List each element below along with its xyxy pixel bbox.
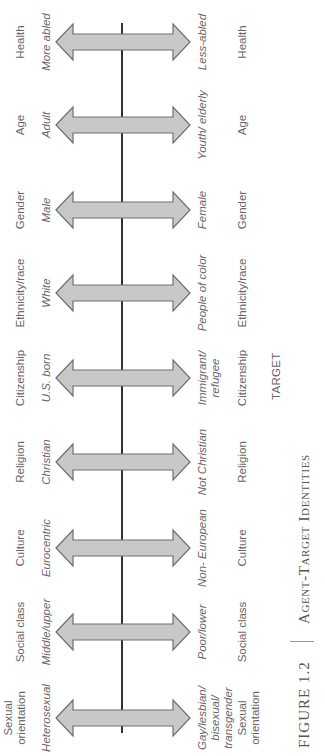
figure-number: FIGURE 1.2 (296, 661, 313, 748)
dimension-gender: Gender Male Female Gender (0, 168, 325, 252)
figure-title: Agent-Target Identities (296, 454, 313, 624)
double-arrow-icon (55, 528, 191, 568)
dimension-social-class: Social class Middle/upper Poor/lower Soc… (0, 590, 325, 674)
dimension-culture: Culture Eurocentric Non- European Cultur… (0, 506, 325, 590)
target-label: Not Christian (196, 420, 209, 504)
agent-label: Adult (40, 83, 53, 167)
category-label-top: Health (14, 0, 27, 84)
dimension-age: Age Adult Youth/ elderly Age (0, 83, 325, 167)
category-label-top: Citizenship (14, 336, 27, 420)
category-label-top: Gender (14, 168, 27, 252)
double-arrow-icon (55, 358, 191, 398)
dimension-health: Health More abled Less-abled Health (0, 0, 325, 84)
target-label: Poor/lower (196, 590, 209, 674)
category-label-top: Culture (14, 506, 27, 590)
target-label: Immigrant/ refugee (196, 336, 222, 420)
category-label-bottom: Citizenship (236, 336, 249, 420)
dimension-ethnicity-race: Ethnicity/race White People of color Eth… (0, 251, 325, 335)
category-label-bottom: Religion (236, 420, 249, 504)
agent-target-diagram: Sexual orientation Heterosexual Gay/lesb… (0, 0, 325, 756)
category-label-bottom: Gender (236, 168, 249, 252)
target-label: Female (196, 168, 209, 252)
double-arrow-icon (55, 442, 191, 482)
target-label: Non- European (196, 506, 209, 590)
double-arrow-icon (55, 698, 191, 738)
category-label-top: Age (14, 83, 27, 167)
target-label: Less-abled (196, 0, 209, 84)
agent-label: Christian (40, 420, 53, 504)
target-label: Gay/lesbian/ bisexual/ transgender (196, 676, 235, 756)
caption-divider (290, 641, 314, 642)
agent-label: White (40, 251, 53, 335)
double-arrow-icon (55, 22, 191, 62)
double-arrow-icon (55, 190, 191, 230)
category-label-top: Sexual orientation (2, 676, 28, 756)
agent-label: Middle/upper (40, 590, 53, 674)
category-label-top: Social class (14, 590, 27, 674)
target-column-header: TARGET (270, 352, 282, 400)
dimension-religion: Religion Christian Not Christian Religio… (0, 420, 325, 504)
category-label-bottom: Age (236, 83, 249, 167)
category-label-bottom: Culture (236, 506, 249, 590)
dimension-sexual-orientation: Sexual orientation Heterosexual Gay/lesb… (0, 676, 325, 756)
category-label-bottom: Ethnicity/race (236, 251, 249, 335)
target-label: Youth/ elderly (196, 83, 209, 167)
double-arrow-icon (55, 105, 191, 145)
category-label-bottom: Social class (236, 590, 249, 674)
category-label-top: Ethnicity/race (14, 251, 27, 335)
category-label-bottom: Sexual orientation (236, 676, 262, 756)
agent-label: Male (40, 168, 53, 252)
category-label-top: Religion (14, 420, 27, 504)
double-arrow-icon (55, 273, 191, 313)
agent-label: Heterosexual (40, 676, 53, 756)
agent-label: Eurocentric (40, 506, 53, 590)
target-label: People of color (196, 251, 209, 335)
agent-label: More abled (40, 0, 53, 84)
category-label-bottom: Health (236, 0, 249, 84)
agent-label: U.S. born (40, 336, 53, 420)
double-arrow-icon (55, 612, 191, 652)
